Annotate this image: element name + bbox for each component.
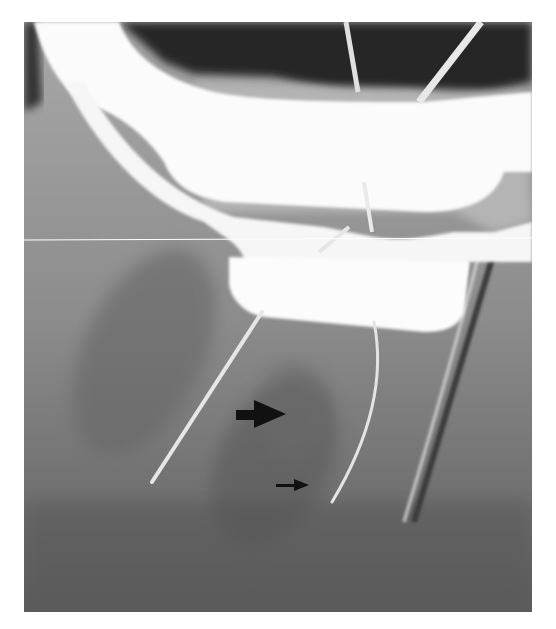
radiograph xyxy=(24,22,532,612)
lower-dark-band xyxy=(24,502,532,612)
